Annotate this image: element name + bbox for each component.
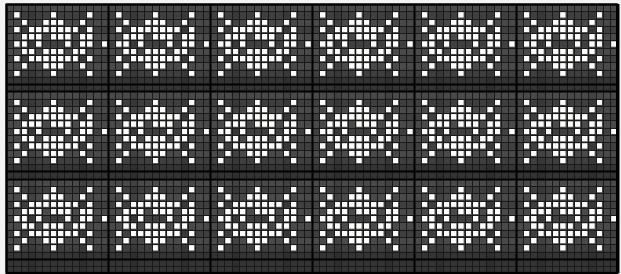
pattern-chart-container <box>0 0 621 274</box>
pattern-chart-stage <box>0 0 621 274</box>
pattern-grid-canvas <box>0 0 621 274</box>
